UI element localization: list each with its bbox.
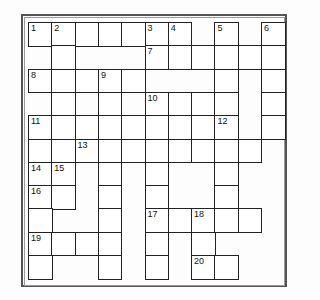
crossword-cell[interactable]: [121, 139, 146, 164]
crossword-cell[interactable]: [191, 45, 216, 70]
crossword-cell[interactable]: [75, 22, 100, 47]
crossword-cell[interactable]: [168, 208, 193, 233]
crossword-cell[interactable]: [214, 139, 239, 164]
crossword-cell[interactable]: [214, 208, 239, 233]
clue-number: 18: [194, 210, 204, 219]
crossword-cell[interactable]: [145, 255, 170, 280]
crossword-cell[interactable]: [214, 45, 239, 70]
crossword-cell[interactable]: [238, 139, 263, 164]
crossword-cell[interactable]: 12: [214, 115, 239, 140]
crossword-cell[interactable]: 9: [98, 69, 123, 94]
crossword-cell[interactable]: [261, 69, 286, 94]
crossword-cell[interactable]: [75, 69, 100, 94]
crossword-cell[interactable]: [98, 255, 123, 280]
crossword-cell[interactable]: [191, 115, 216, 140]
crossword-cell[interactable]: [191, 232, 216, 257]
crossword-cell[interactable]: [98, 185, 123, 210]
crossword-cell[interactable]: 1: [28, 22, 53, 47]
crossword-cell[interactable]: 6: [261, 22, 286, 47]
crossword-cell[interactable]: 14: [28, 162, 53, 187]
clue-number: 14: [31, 164, 41, 173]
clue-number: 16: [31, 187, 41, 196]
crossword-cell[interactable]: [28, 208, 53, 233]
clue-number: 13: [78, 141, 88, 150]
crossword-cell[interactable]: [98, 232, 123, 257]
crossword-cell[interactable]: [51, 232, 76, 257]
clue-number: 6: [264, 24, 269, 33]
crossword-cell[interactable]: 13: [75, 139, 100, 164]
crossword-cell[interactable]: 8: [28, 69, 53, 94]
clue-number: 15: [54, 164, 64, 173]
crossword-cell[interactable]: [75, 115, 100, 140]
crossword-cell[interactable]: [98, 139, 123, 164]
crossword-cell[interactable]: [51, 45, 76, 70]
crossword-cell[interactable]: 18: [191, 208, 216, 233]
crossword-cell[interactable]: [121, 22, 146, 47]
crossword-cell[interactable]: [98, 162, 123, 187]
crossword-cell[interactable]: [214, 69, 239, 94]
crossword-cell[interactable]: 4: [168, 22, 193, 47]
crossword-cell[interactable]: [214, 185, 239, 210]
crossword-cell[interactable]: [168, 45, 193, 70]
crossword-cell[interactable]: [121, 69, 146, 94]
crossword-cell[interactable]: [168, 115, 193, 140]
crossword-cell[interactable]: [98, 115, 123, 140]
crossword-cell[interactable]: 10: [145, 92, 170, 117]
clue-number: 3: [148, 24, 153, 33]
clue-number: 1: [31, 24, 36, 33]
clue-number: 7: [148, 47, 153, 56]
crossword-cell[interactable]: 2: [51, 22, 76, 47]
crossword-cell[interactable]: 11: [28, 115, 53, 140]
clue-number: 12: [217, 117, 227, 126]
crossword-cell[interactable]: [145, 162, 170, 187]
crossword-cell[interactable]: [51, 69, 76, 94]
crossword-cell[interactable]: 16: [28, 185, 53, 210]
crossword-cell[interactable]: [98, 208, 123, 233]
crossword-cell[interactable]: 19: [28, 232, 53, 257]
crossword-cell[interactable]: [238, 45, 263, 70]
crossword-cell[interactable]: [191, 92, 216, 117]
crossword-cell[interactable]: [145, 139, 170, 164]
crossword-cell[interactable]: [28, 255, 53, 280]
crossword-cell[interactable]: 5: [214, 22, 239, 47]
clue-number: 4: [171, 24, 176, 33]
crossword-cell[interactable]: [98, 22, 123, 47]
crossword-cell[interactable]: [51, 92, 76, 117]
crossword-cell[interactable]: [168, 92, 193, 117]
crossword-cell[interactable]: 3: [145, 22, 170, 47]
clue-number: 17: [148, 210, 158, 219]
crossword-cell[interactable]: [214, 162, 239, 187]
crossword-cell[interactable]: [145, 185, 170, 210]
crossword-cell[interactable]: 15: [51, 162, 76, 187]
crossword-cell[interactable]: [121, 115, 146, 140]
crossword-cell[interactable]: [261, 92, 286, 117]
clue-number: 5: [217, 24, 222, 33]
clue-number: 8: [31, 71, 36, 80]
crossword-cell[interactable]: [28, 139, 53, 164]
crossword-cell[interactable]: [98, 92, 123, 117]
crossword-cell[interactable]: 7: [145, 45, 170, 70]
crossword-cell[interactable]: [214, 92, 239, 117]
crossword-cell[interactable]: 17: [145, 208, 170, 233]
clue-number: 20: [194, 257, 204, 266]
crossword-cell[interactable]: [214, 255, 239, 280]
crossword-cell[interactable]: [51, 139, 76, 164]
crossword-cell[interactable]: [145, 115, 170, 140]
crossword-cell[interactable]: [238, 208, 263, 233]
crossword-cell[interactable]: [191, 139, 216, 164]
crossword-cell[interactable]: [168, 139, 193, 164]
clue-number: 10: [148, 94, 158, 103]
crossword-cell[interactable]: [145, 232, 170, 257]
crossword-cell[interactable]: [261, 45, 286, 70]
clue-number: 19: [31, 234, 41, 243]
crossword-cell[interactable]: [51, 185, 76, 210]
crossword-cell[interactable]: [75, 232, 100, 257]
crossword-cell[interactable]: [261, 115, 286, 140]
clue-number: 11: [31, 117, 40, 126]
crossword-cell[interactable]: [51, 115, 76, 140]
crossword-cell[interactable]: 20: [191, 255, 216, 280]
clue-number: 9: [101, 71, 106, 80]
clue-number: 2: [54, 24, 59, 33]
crossword-grid: 1234567891011121314151617181920: [28, 22, 284, 278]
